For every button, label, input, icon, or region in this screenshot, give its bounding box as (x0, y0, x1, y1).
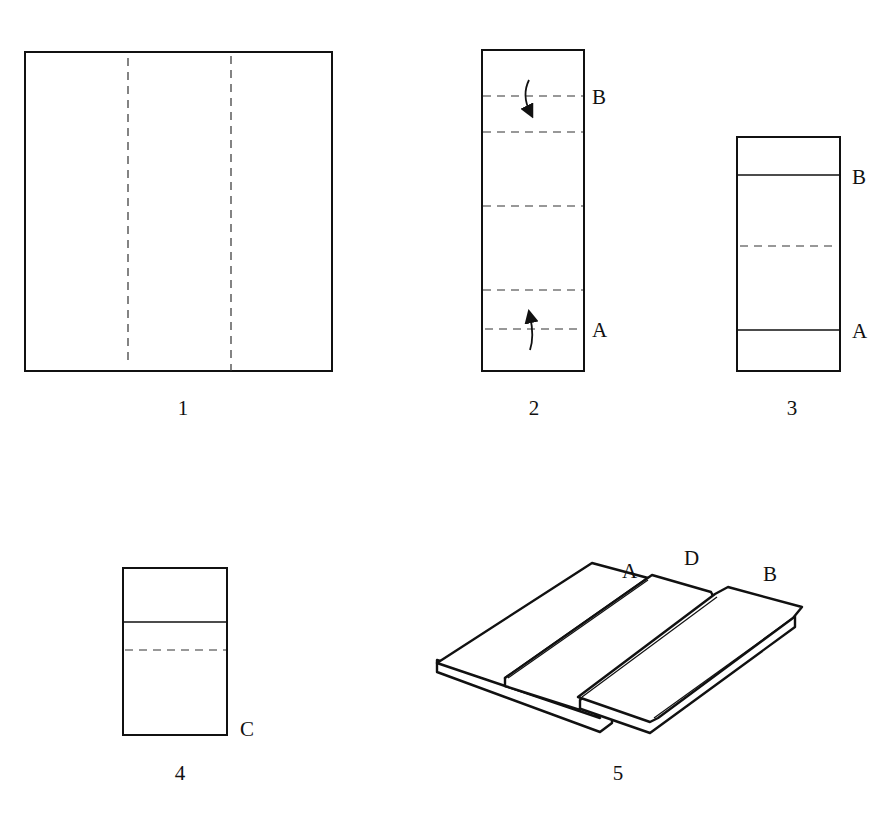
folded-packet (123, 568, 227, 735)
label-c: C (240, 717, 254, 741)
figure-4: C 4 (123, 568, 254, 785)
paper-square (25, 52, 332, 371)
label-d: D (684, 546, 699, 570)
label-a: A (852, 319, 868, 343)
label-b: B (852, 165, 866, 189)
figure-number-5: 5 (613, 761, 624, 785)
figure-number-2: 2 (529, 396, 540, 420)
figure-number-4: 4 (175, 761, 186, 785)
folding-diagram: 1 B A 2 B A 3 C 4 (0, 0, 883, 827)
figure-1: 1 (25, 52, 332, 420)
label-a: A (622, 559, 638, 583)
figure-number-1: 1 (178, 396, 189, 420)
folded-strip (737, 137, 840, 371)
label-a: A (592, 318, 608, 342)
figure-5: A D B 5 (437, 546, 802, 785)
paper-strip (482, 50, 584, 371)
figure-3: B A 3 (737, 137, 868, 420)
label-b: B (592, 85, 606, 109)
label-b: B (763, 562, 777, 586)
figure-number-3: 3 (787, 396, 798, 420)
figure-2: B A 2 (482, 50, 608, 420)
